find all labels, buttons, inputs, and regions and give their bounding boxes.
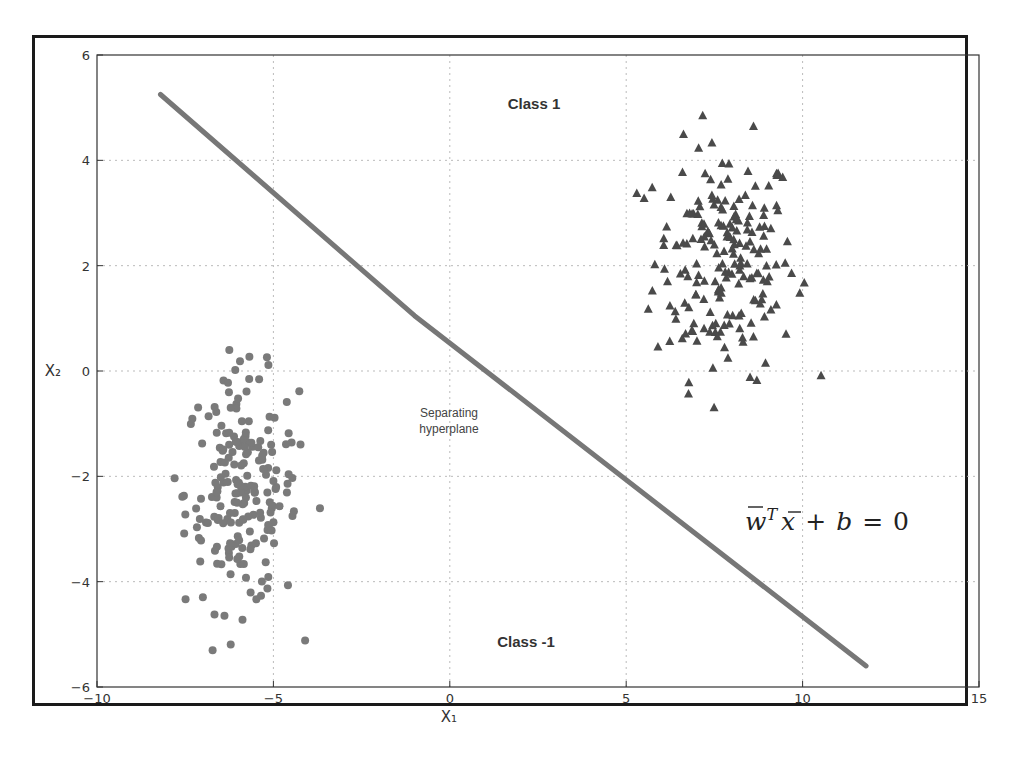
circle-marker [243,388,251,396]
circle-marker [316,504,324,512]
circle-marker [213,560,221,568]
circle-marker [285,429,293,437]
triangle-marker [748,201,757,210]
circle-marker [243,472,251,480]
triangle-marker [765,272,774,281]
triangle-marker [749,245,758,254]
triangle-marker [744,166,753,175]
circle-marker [251,489,259,497]
triangle-marker [694,270,703,279]
circle-marker [197,495,205,503]
triangle-marker [731,210,740,219]
circle-marker [255,375,263,383]
triangle-marker [783,237,792,246]
circle-marker [209,646,217,654]
circle-marker [219,446,227,454]
y-tick-label: 0 [82,364,90,379]
circle-marker [178,493,186,501]
triangle-marker [749,122,758,131]
circle-marker [192,504,200,512]
circle-marker [225,346,233,354]
circle-marker [227,570,235,578]
circle-marker [247,482,255,490]
circle-marker [260,534,268,542]
axis-ticks: −10−5051015−6−4−20246 [71,48,987,706]
circle-marker [221,458,229,466]
circle-marker [242,574,250,582]
circle-marker [290,507,298,515]
triangle-marker [723,174,732,183]
circle-marker [262,471,270,479]
triangle-marker [720,343,729,352]
circle-marker [238,544,246,552]
y-tick-label: 2 [82,259,90,274]
circle-marker [268,448,276,456]
triangle-marker [684,389,693,398]
y-tick-label: 6 [82,48,90,63]
triangle-marker [741,190,750,199]
triangle-marker [707,138,716,147]
circle-marker [267,509,275,517]
triangle-marker [648,286,657,295]
circle-marker [226,539,234,547]
circle-marker [198,439,206,447]
circle-marker [297,441,305,449]
triangle-marker [698,111,707,120]
circle-marker [205,412,213,420]
circle-marker [284,581,292,589]
triangle-marker [720,247,729,256]
triangle-marker [764,181,773,190]
circle-marker [210,463,218,471]
triangle-marker [762,244,771,253]
circle-marker [270,539,278,547]
circle-marker [234,395,242,403]
triangle-marker [688,234,697,243]
triangle-marker [710,403,719,412]
triangle-marker [745,212,754,221]
triangle-marker [653,342,662,351]
y-tick-label: −4 [71,575,90,590]
circle-marker [225,388,233,396]
triangle-marker [749,332,758,341]
circle-marker [194,403,202,411]
triangle-marker [772,201,781,210]
circle-marker [213,429,221,437]
circle-marker [240,560,248,568]
triangle-marker [680,298,689,307]
triangle-marker [699,294,708,303]
y-tick-label: −2 [71,469,90,484]
circle-marker [188,415,196,423]
circle-marker [256,509,264,517]
triangle-marker [759,231,768,240]
triangle-marker [725,319,734,328]
circle-marker [228,448,236,456]
triangle-marker [737,308,746,317]
circle-marker [252,539,260,547]
triangle-marker [689,319,698,328]
triangle-marker [817,371,826,380]
circle-marker [256,437,264,445]
triangle-marker [708,363,717,372]
triangle-marker [700,324,709,333]
circle-marker [246,545,254,553]
circle-marker [235,553,243,561]
triangle-marker [751,181,760,190]
circle-marker [193,523,201,531]
circle-marker [204,519,212,527]
triangle-marker [738,333,747,342]
x-axis-label: X₁ [441,708,457,726]
triangle-marker [692,278,701,287]
circle-marker [227,404,235,412]
circle-marker [233,499,241,507]
circle-marker [238,417,246,425]
y-tick-label: 4 [82,153,90,168]
circle-marker [272,466,280,474]
svg-text:wTx+b=0: wTx+b=0 [745,505,909,536]
triangle-marker [684,378,693,387]
circle-marker [197,536,205,544]
triangle-marker [659,234,668,243]
circle-marker [258,452,266,460]
triangle-marker [707,190,716,199]
triangle-marker [665,301,674,310]
circle-marker [267,441,275,449]
